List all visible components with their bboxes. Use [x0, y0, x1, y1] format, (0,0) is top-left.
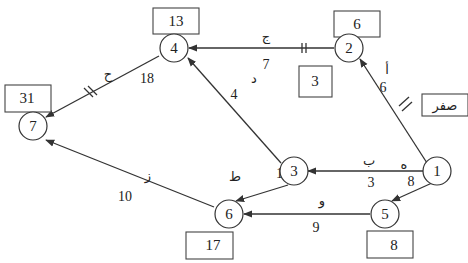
svg-text:5: 5 [381, 206, 389, 222]
activity-label: د [251, 71, 257, 86]
svg-text:2: 2 [345, 40, 353, 56]
node-7: 7 [19, 112, 47, 140]
time-box-node-4: 13 [153, 8, 199, 34]
edge-4-7: ح 18 [46, 56, 159, 117]
svg-text:3: 3 [311, 73, 319, 89]
node-1: 1 [423, 157, 451, 185]
time-box-node-6: 17 [186, 232, 233, 259]
activity-label: و [318, 193, 325, 209]
duration-label: 10 [118, 189, 132, 204]
time-box-node-1: صفر [422, 94, 468, 116]
edge-1-2: أ 6 [360, 59, 427, 163]
time-box-node-5: 8 [367, 231, 413, 258]
svg-text:3: 3 [290, 163, 298, 179]
duration-label: 9 [313, 220, 320, 235]
node-4: 4 [160, 34, 188, 62]
svg-text:صفر: صفر [432, 98, 458, 114]
edge-2-4: ج 7 [189, 29, 334, 72]
svg-text:8: 8 [390, 237, 398, 253]
network-diagram: أ 6 ب 3 ج 7 د 4 ه 8 و 9 ط 14 [0, 0, 468, 263]
duration-label: 3 [368, 175, 375, 190]
svg-text:6: 6 [225, 206, 233, 222]
edge-5-6: و 9 [244, 193, 370, 235]
svg-text:17: 17 [206, 237, 222, 253]
svg-text:13: 13 [169, 13, 184, 29]
duration-label: 7 [263, 57, 270, 72]
node-2: 2 [335, 34, 363, 62]
svg-text:31: 31 [20, 90, 35, 106]
node-5: 5 [371, 200, 399, 228]
duration-label: 18 [140, 71, 154, 86]
duration-label: 4 [231, 87, 238, 102]
svg-text:7: 7 [29, 118, 37, 134]
edge-3-4: د 4 [188, 58, 281, 163]
edge-6-7: ز 10 [46, 140, 214, 207]
time-box-node-7: 31 [5, 85, 51, 112]
activity-label: أ [385, 61, 389, 77]
time-box-node-3: 3 [299, 66, 332, 97]
activity-label: ز [144, 168, 151, 184]
duration-label: 6 [380, 80, 387, 95]
svg-text:1: 1 [433, 163, 441, 179]
activity-label: ح [104, 67, 113, 83]
node-3: 3 [280, 157, 308, 185]
duration-label: 8 [408, 174, 415, 189]
svg-text:6: 6 [353, 16, 361, 32]
svg-text:4: 4 [170, 40, 178, 56]
node-6: 6 [215, 200, 243, 228]
activity-label: ط [229, 169, 241, 184]
activity-label: ج [262, 29, 271, 45]
time-box-node-2: 6 [334, 11, 380, 37]
activity-label: ب [363, 153, 375, 168]
activity-label: ه [401, 157, 408, 172]
